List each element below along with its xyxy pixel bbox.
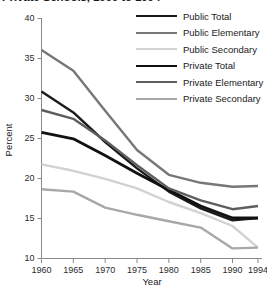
x-tick-label: 1960	[31, 265, 51, 275]
legend-item-label: Public Secondary	[183, 45, 257, 55]
y-tick-label: 25	[24, 133, 34, 143]
legend-item: Public Elementary	[136, 25, 267, 42]
legend-item: Private Secondary	[136, 91, 267, 108]
y-axis: 10152025303540 Percent	[3, 13, 42, 263]
chart-container: Private Schools, 1960 to 1994 1015202530…	[0, 0, 267, 289]
y-tick-label: 35	[24, 53, 34, 63]
legend-swatch-icon	[136, 48, 177, 50]
x-tick-label: 1985	[191, 265, 211, 275]
legend-item: Private Total	[136, 58, 267, 75]
x-axis: 19601965197019751980198519901994 Year	[31, 259, 267, 288]
legend-item-label: Private Elementary	[183, 78, 263, 88]
legend-item: Private Elementary	[136, 74, 267, 91]
x-axis-label: Year	[142, 276, 161, 287]
y-tick-label: 20	[24, 173, 34, 183]
x-tick-label: 1994	[248, 265, 267, 275]
y-tick-label: 40	[24, 13, 34, 23]
legend-item: Public Secondary	[136, 41, 267, 58]
y-tick-label: 10	[24, 253, 34, 263]
x-tick-label: 1965	[63, 265, 83, 275]
series-line	[42, 92, 259, 221]
chart-legend: Public Total Public Elementary Public Se…	[136, 8, 267, 107]
legend-swatch-icon	[136, 98, 177, 100]
legend-item-label: Private Secondary	[183, 94, 261, 104]
y-axis-label: Percent	[3, 123, 14, 156]
y-tick-label: 30	[24, 93, 34, 103]
legend-item-label: Private Total	[183, 61, 235, 71]
x-tick-label: 1990	[223, 265, 243, 275]
legend-item-label: Public Elementary	[183, 28, 260, 38]
x-tick-label: 1975	[127, 265, 147, 275]
legend-item: Public Total	[136, 8, 267, 25]
legend-swatch-icon	[136, 32, 177, 34]
y-tick-label: 15	[24, 213, 34, 223]
legend-swatch-icon	[136, 65, 177, 67]
legend-item-label: Public Total	[183, 12, 231, 22]
legend-swatch-icon	[136, 81, 177, 83]
x-tick-label: 1970	[95, 265, 115, 275]
legend-swatch-icon	[136, 15, 177, 17]
x-tick-label: 1980	[159, 265, 179, 275]
